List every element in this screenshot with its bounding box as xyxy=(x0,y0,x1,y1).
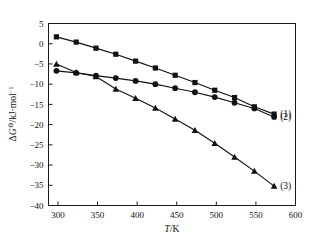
data-point xyxy=(113,75,119,81)
data-point xyxy=(212,88,217,93)
data-point xyxy=(173,73,178,78)
y-axis-title: ΔG⊖/kJ·mol−1 xyxy=(7,87,19,142)
data-point xyxy=(133,59,138,64)
data-point xyxy=(133,78,139,84)
y-tick-label: −40 xyxy=(29,201,44,211)
y-tick-label: −30 xyxy=(29,160,44,170)
delta-g-vs-temperature-chart: 300350400450500550600 50−5−10−15−20−25−3… xyxy=(0,0,320,248)
x-tick-label: 350 xyxy=(91,210,105,220)
x-axis-title: T/K xyxy=(165,224,180,234)
y-tick-label: −20 xyxy=(29,120,44,130)
x-tick-label: 450 xyxy=(170,210,184,220)
series-label-3: (3) xyxy=(280,181,291,192)
data-point xyxy=(192,80,197,85)
y-tick-label: −5 xyxy=(34,59,44,69)
data-point xyxy=(271,114,277,120)
series-label-2: (2) xyxy=(280,112,291,123)
data-point xyxy=(93,46,98,51)
x-tick-label: 500 xyxy=(210,210,224,220)
data-point xyxy=(54,34,59,39)
data-point xyxy=(153,65,158,70)
y-tick-label: −15 xyxy=(29,100,44,110)
y-tick-label: 0 xyxy=(39,39,44,49)
x-tick-label: 300 xyxy=(51,210,65,220)
data-point xyxy=(152,81,158,87)
data-point xyxy=(212,94,218,100)
data-point xyxy=(232,95,237,100)
x-tick-label: 600 xyxy=(289,210,303,220)
data-point xyxy=(232,100,238,106)
data-point xyxy=(113,52,118,57)
y-tick-label: −10 xyxy=(29,79,44,89)
data-point xyxy=(192,89,198,95)
data-point xyxy=(172,85,178,91)
y-tick-label: 5 xyxy=(39,19,44,29)
y-tick-label: −25 xyxy=(29,140,44,150)
x-tick-label: 400 xyxy=(130,210,144,220)
x-tick-label: 550 xyxy=(249,210,263,220)
chart-figure: 300350400450500550600 50−5−10−15−20−25−3… xyxy=(0,0,320,248)
data-point xyxy=(74,40,79,45)
y-tick-label: −35 xyxy=(29,180,44,190)
data-point xyxy=(251,106,257,112)
data-point xyxy=(54,68,60,74)
